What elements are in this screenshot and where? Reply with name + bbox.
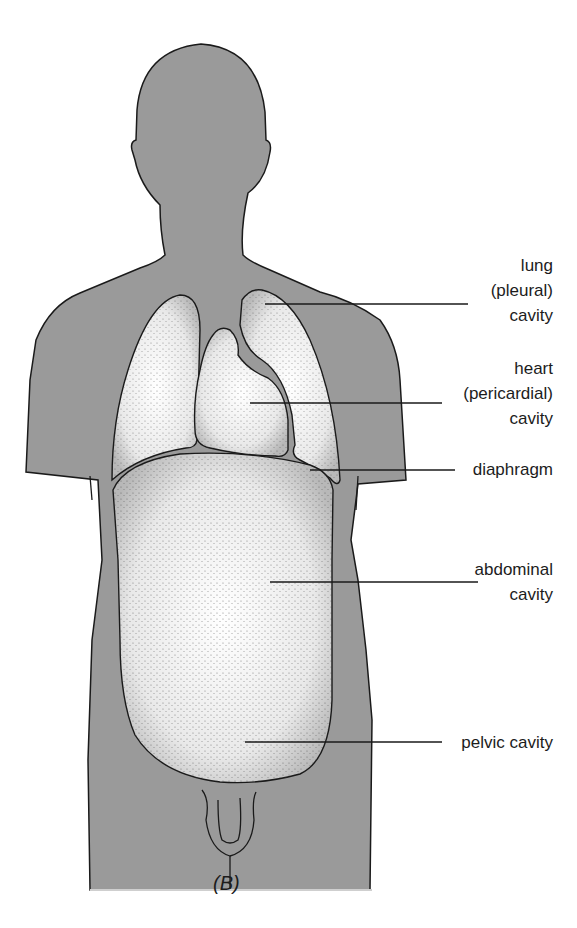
figure-caption: (B) bbox=[213, 872, 240, 895]
label-abdominal-cavity: abdominal cavity bbox=[475, 557, 553, 607]
label-heart-cavity: heart (pericardial) cavity bbox=[463, 356, 553, 431]
label-lung-cavity: lung (pleural) cavity bbox=[491, 253, 553, 328]
label-pelvic-cavity: pelvic cavity bbox=[461, 730, 553, 755]
label-diaphragm: diaphragm bbox=[473, 457, 553, 482]
